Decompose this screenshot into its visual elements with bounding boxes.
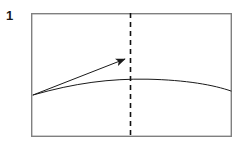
concave-curve: [33, 79, 231, 95]
diagram-canvas: [0, 0, 239, 142]
figure-container: 1: [0, 0, 239, 142]
plot-frame: [32, 14, 232, 137]
tangent-arrow: [33, 59, 125, 95]
